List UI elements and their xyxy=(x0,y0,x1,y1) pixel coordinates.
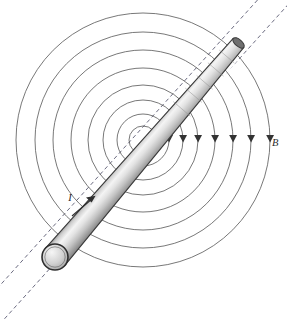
conductor-rod xyxy=(42,32,251,270)
field-arrow-icon xyxy=(247,135,255,143)
figure-canvas: I B xyxy=(0,0,287,323)
field-arrow-icon xyxy=(229,135,237,143)
current-label: I xyxy=(67,192,72,203)
field-arrow-icon xyxy=(211,135,219,143)
rod-body xyxy=(45,34,248,265)
magnetic-field-label: B xyxy=(272,137,279,148)
physics-figure: I B xyxy=(0,0,287,323)
field-arrow-icon xyxy=(179,135,187,143)
rod-near-end-cap xyxy=(42,244,68,270)
field-arrow-icon xyxy=(194,135,202,143)
